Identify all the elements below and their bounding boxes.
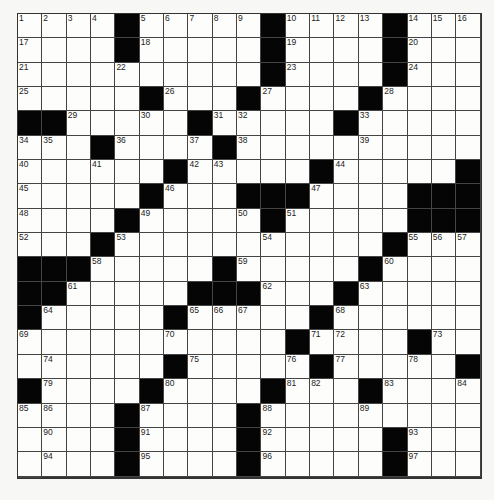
grid-cell[interactable] [383, 355, 407, 379]
grid-cell[interactable]: 87 [140, 404, 164, 428]
grid-cell[interactable] [359, 355, 383, 379]
grid-cell[interactable]: 86 [42, 404, 66, 428]
grid-cell[interactable] [359, 330, 383, 354]
grid-cell[interactable] [213, 404, 237, 428]
grid-cell[interactable] [237, 160, 261, 184]
grid-cell[interactable]: 84 [456, 379, 480, 403]
grid-cell[interactable]: 69 [18, 330, 42, 354]
grid-cell[interactable]: 33 [359, 111, 383, 135]
grid-cell[interactable]: 32 [237, 111, 261, 135]
grid-cell[interactable] [213, 63, 237, 87]
grid-cell[interactable]: 18 [140, 38, 164, 62]
grid-cell[interactable] [261, 257, 285, 281]
grid-cell[interactable] [213, 330, 237, 354]
grid-cell[interactable]: 24 [408, 63, 432, 87]
grid-cell[interactable]: 90 [42, 428, 66, 452]
grid-cell[interactable]: 70 [164, 330, 188, 354]
grid-cell[interactable]: 4 [91, 14, 115, 38]
grid-cell[interactable] [310, 111, 334, 135]
grid-cell[interactable] [310, 63, 334, 87]
grid-cell[interactable] [91, 452, 115, 476]
grid-cell[interactable]: 7 [188, 14, 212, 38]
grid-cell[interactable] [164, 404, 188, 428]
grid-cell[interactable] [359, 233, 383, 257]
grid-cell[interactable]: 83 [383, 379, 407, 403]
grid-cell[interactable]: 61 [67, 282, 91, 306]
grid-cell[interactable] [91, 184, 115, 208]
grid-cell[interactable] [383, 209, 407, 233]
grid-cell[interactable] [456, 282, 480, 306]
grid-cell[interactable] [286, 136, 310, 160]
grid-cell[interactable]: 36 [115, 136, 139, 160]
grid-cell[interactable] [310, 209, 334, 233]
grid-cell[interactable] [188, 452, 212, 476]
grid-cell[interactable]: 80 [164, 379, 188, 403]
grid-cell[interactable] [359, 63, 383, 87]
grid-cell[interactable]: 66 [213, 306, 237, 330]
grid-cell[interactable]: 75 [188, 355, 212, 379]
grid-cell[interactable] [140, 233, 164, 257]
grid-cell[interactable] [115, 257, 139, 281]
grid-cell[interactable] [334, 209, 358, 233]
grid-cell[interactable]: 93 [408, 428, 432, 452]
grid-cell[interactable] [18, 355, 42, 379]
grid-cell[interactable] [286, 233, 310, 257]
grid-cell[interactable] [261, 330, 285, 354]
grid-cell[interactable] [115, 87, 139, 111]
grid-cell[interactable] [456, 330, 480, 354]
grid-cell[interactable] [334, 428, 358, 452]
grid-cell[interactable] [213, 38, 237, 62]
grid-cell[interactable]: 46 [164, 184, 188, 208]
grid-cell[interactable]: 95 [140, 452, 164, 476]
grid-cell[interactable]: 42 [188, 160, 212, 184]
grid-cell[interactable] [310, 257, 334, 281]
grid-cell[interactable]: 11 [310, 14, 334, 38]
grid-cell[interactable]: 55 [408, 233, 432, 257]
grid-cell[interactable]: 27 [261, 87, 285, 111]
grid-cell[interactable] [188, 330, 212, 354]
grid-cell[interactable]: 57 [456, 233, 480, 257]
grid-cell[interactable] [383, 160, 407, 184]
grid-cell[interactable]: 15 [432, 14, 456, 38]
grid-cell[interactable]: 59 [237, 257, 261, 281]
grid-cell[interactable] [213, 379, 237, 403]
grid-cell[interactable]: 73 [432, 330, 456, 354]
grid-cell[interactable]: 82 [310, 379, 334, 403]
grid-cell[interactable] [334, 184, 358, 208]
grid-cell[interactable] [383, 404, 407, 428]
grid-cell[interactable] [237, 330, 261, 354]
grid-cell[interactable] [456, 257, 480, 281]
grid-cell[interactable] [334, 87, 358, 111]
grid-cell[interactable]: 1 [18, 14, 42, 38]
grid-cell[interactable]: 49 [140, 209, 164, 233]
grid-cell[interactable] [213, 452, 237, 476]
grid-cell[interactable] [261, 111, 285, 135]
grid-cell[interactable] [310, 452, 334, 476]
grid-cell[interactable] [67, 452, 91, 476]
grid-cell[interactable] [383, 282, 407, 306]
grid-cell[interactable] [408, 136, 432, 160]
grid-cell[interactable] [286, 428, 310, 452]
grid-cell[interactable] [310, 233, 334, 257]
grid-cell[interactable] [140, 306, 164, 330]
grid-cell[interactable]: 34 [18, 136, 42, 160]
grid-cell[interactable] [310, 282, 334, 306]
grid-cell[interactable] [286, 404, 310, 428]
grid-cell[interactable] [67, 63, 91, 87]
grid-cell[interactable]: 51 [286, 209, 310, 233]
grid-cell[interactable] [213, 209, 237, 233]
grid-cell[interactable] [237, 355, 261, 379]
grid-cell[interactable]: 48 [18, 209, 42, 233]
grid-cell[interactable] [188, 233, 212, 257]
grid-cell[interactable]: 8 [213, 14, 237, 38]
grid-cell[interactable] [164, 282, 188, 306]
grid-cell[interactable]: 45 [18, 184, 42, 208]
grid-cell[interactable] [188, 63, 212, 87]
grid-cell[interactable] [286, 87, 310, 111]
grid-cell[interactable]: 92 [261, 428, 285, 452]
grid-cell[interactable]: 10 [286, 14, 310, 38]
grid-cell[interactable]: 91 [140, 428, 164, 452]
grid-cell[interactable]: 40 [18, 160, 42, 184]
grid-cell[interactable] [286, 111, 310, 135]
grid-cell[interactable] [140, 63, 164, 87]
